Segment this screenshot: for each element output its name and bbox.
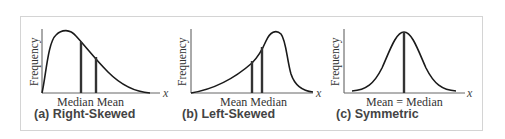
x-axis-label: x: [466, 86, 473, 100]
caption-right-skewed: (a) Right-Skewed: [34, 107, 135, 121]
x-axis-label: x: [315, 86, 322, 100]
y-axis-label: Frequency: [329, 37, 342, 86]
panel-left-skewed: x Frequency Mean Median: [176, 29, 322, 109]
caption-symmetric: (c) Symmetric: [336, 107, 419, 121]
caption-left-skewed: (b) Left-Skewed: [182, 107, 275, 121]
y-axis-label: Frequency: [176, 37, 189, 86]
x-axis-label: x: [162, 86, 169, 100]
panel-symmetric: x Frequency Mean = Median: [329, 29, 473, 109]
panel-right-skewed: x Frequency Median Mean: [28, 29, 169, 109]
y-axis-label: Frequency: [28, 37, 41, 86]
